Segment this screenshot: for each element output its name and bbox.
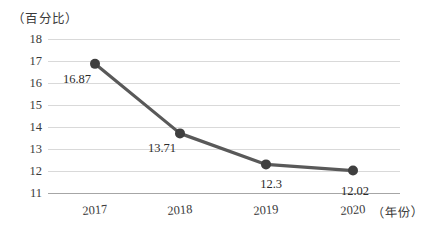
data-point-marker bbox=[175, 128, 185, 138]
data-point-label: 12.3 bbox=[260, 177, 282, 192]
series-line bbox=[95, 64, 353, 171]
data-point-label: 13.71 bbox=[148, 141, 176, 156]
data-point-marker bbox=[261, 159, 271, 169]
series-line-layer bbox=[0, 0, 432, 236]
line-chart: （百分比） 1817161514131211 （年份） 201720182019… bbox=[0, 0, 432, 236]
data-point-label: 16.87 bbox=[63, 72, 91, 87]
data-point-marker bbox=[90, 59, 100, 69]
data-point-marker bbox=[348, 166, 358, 176]
data-point-label: 12.02 bbox=[341, 184, 369, 199]
